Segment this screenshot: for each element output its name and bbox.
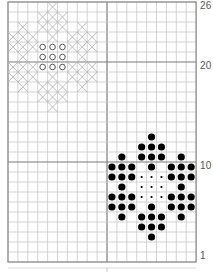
cross-stitch-symbol — [38, 22, 48, 32]
cross-stitch-symbol — [58, 22, 68, 32]
cross-stitch-symbol — [28, 72, 38, 82]
cross-stitch-symbol — [18, 82, 28, 92]
large-dot-symbol — [118, 183, 125, 190]
large-dot-symbol — [128, 193, 135, 200]
cross-stitch-symbol — [48, 22, 58, 32]
cross-stitch-symbol — [48, 102, 58, 112]
large-dot-symbol — [138, 223, 145, 230]
row-label: 10 — [200, 160, 211, 171]
cross-stitch-symbol — [77, 42, 87, 52]
cross-stitch-symbol — [67, 42, 77, 52]
large-dot-symbol — [128, 163, 135, 170]
cross-stitch-symbol — [48, 2, 58, 12]
large-dot-symbol — [118, 193, 125, 200]
large-dot-symbol — [158, 143, 165, 150]
cross-stitch-symbol — [77, 32, 87, 42]
ring-symbol — [40, 64, 46, 70]
cross-stitch-symbol — [48, 92, 58, 102]
large-dot-symbol — [138, 153, 145, 160]
large-dot-symbol — [118, 213, 125, 220]
large-dot-symbol — [168, 163, 175, 170]
small-dot-symbol — [150, 196, 152, 198]
cross-stitch-symbol — [77, 52, 87, 62]
cross-stitch-symbol — [48, 82, 58, 92]
ring-symbol — [60, 54, 66, 60]
cross-stitch-chart — [0, 0, 213, 273]
large-dot-symbol — [178, 213, 185, 220]
large-dot-symbol — [138, 213, 145, 220]
large-dot-symbol — [148, 233, 155, 240]
large-dot-symbol — [168, 173, 175, 180]
cross-stitch-symbol — [67, 62, 77, 72]
cross-stitch-symbol — [28, 42, 38, 52]
large-dot-symbol — [138, 143, 145, 150]
large-dot-symbol — [178, 153, 185, 160]
row-label: 20 — [200, 60, 211, 71]
cross-stitch-symbol — [18, 72, 28, 82]
large-dot-symbol — [148, 213, 155, 220]
large-dot-symbol — [158, 153, 165, 160]
ring-symbol — [40, 44, 46, 50]
small-dot-symbol — [141, 176, 143, 178]
large-dot-symbol — [188, 173, 195, 180]
large-dot-symbol — [118, 203, 125, 210]
cross-stitch-symbol — [28, 62, 38, 72]
cross-stitch-symbol — [77, 72, 87, 82]
large-dot-symbol — [148, 223, 155, 230]
small-dot-symbol — [160, 196, 162, 198]
large-dot-symbol — [108, 203, 115, 210]
cross-stitch-symbol — [48, 72, 58, 82]
small-dot-symbol — [141, 186, 143, 188]
cross-stitch-symbol — [77, 82, 87, 92]
cross-stitch-symbol — [77, 22, 87, 32]
cross-stitch-symbol — [8, 42, 18, 52]
cross-stitch-symbol — [87, 32, 97, 42]
cross-stitch-symbol — [38, 82, 48, 92]
large-dot-symbol — [128, 173, 135, 180]
large-dot-symbol — [158, 213, 165, 220]
ring-symbol — [50, 64, 56, 70]
large-dot-symbol — [178, 193, 185, 200]
cross-stitch-symbol — [67, 72, 77, 82]
cross-stitch-symbol — [8, 62, 18, 72]
cross-stitch-symbol — [48, 32, 58, 42]
ring-symbol — [40, 54, 46, 60]
small-dot-symbol — [150, 176, 152, 178]
cross-stitch-symbol — [58, 12, 68, 22]
cross-stitch-symbol — [87, 42, 97, 52]
cross-stitch-symbol — [38, 92, 48, 102]
cross-stitch-symbol — [87, 62, 97, 72]
cross-stitch-symbol — [48, 12, 58, 22]
ring-symbol — [60, 44, 66, 50]
cross-stitch-symbol — [58, 92, 68, 102]
cross-stitch-symbol — [8, 32, 18, 42]
row-label: 26 — [200, 0, 211, 11]
large-dot-symbol — [188, 193, 195, 200]
cross-stitch-symbol — [38, 12, 48, 22]
small-dot-symbol — [141, 196, 143, 198]
large-dot-symbol — [108, 193, 115, 200]
large-dot-symbol — [178, 163, 185, 170]
large-dot-symbol — [148, 163, 155, 170]
large-dot-symbol — [108, 173, 115, 180]
large-dot-symbol — [168, 193, 175, 200]
row-label: 1 — [200, 250, 206, 261]
ring-symbol — [60, 64, 66, 70]
cross-stitch-symbol — [8, 72, 18, 82]
large-dot-symbol — [118, 153, 125, 160]
cross-stitch-symbol — [77, 62, 87, 72]
large-dot-symbol — [188, 203, 195, 210]
ring-symbol — [50, 44, 56, 50]
large-dot-symbol — [178, 203, 185, 210]
small-dot-symbol — [160, 176, 162, 178]
cross-stitch-symbol — [67, 32, 77, 42]
large-dot-symbol — [118, 173, 125, 180]
cross-stitch-symbol — [18, 22, 28, 32]
cross-stitch-symbol — [58, 82, 68, 92]
cross-stitch-symbol — [87, 72, 97, 82]
large-dot-symbol — [128, 203, 135, 210]
large-dot-symbol — [148, 203, 155, 210]
cross-stitch-symbol — [18, 52, 28, 62]
large-dot-symbol — [158, 223, 165, 230]
small-dot-symbol — [160, 186, 162, 188]
